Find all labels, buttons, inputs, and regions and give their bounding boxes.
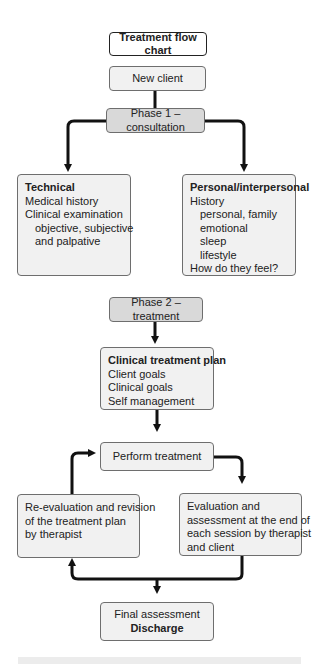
chart-title: Treatment flow chart (110, 31, 206, 58)
footer-bar (18, 657, 301, 664)
connector-arrows (0, 0, 318, 664)
new-client-node: New client (109, 66, 206, 91)
phase2-node: Phase 2 – treatment (109, 297, 203, 322)
evaluation-node: Evaluation and assessment at the end of … (179, 493, 302, 556)
phase1-node: Phase 1 – consultation (106, 108, 205, 133)
treatment-plan-node: Clinical treatment plan Client goals Cli… (100, 347, 214, 410)
perform-treatment-node: Perform treatment (100, 442, 214, 471)
reevaluation-node: Re-evaluation and revision of the treatm… (17, 494, 140, 558)
title-box: Treatment flow chart (109, 32, 207, 56)
technical-node: Technical Medical history Clinical exami… (17, 174, 131, 276)
final-assessment-node: Final assessment Discharge (100, 602, 214, 641)
personal-node: Personal/interpersonal History personal,… (182, 174, 296, 276)
